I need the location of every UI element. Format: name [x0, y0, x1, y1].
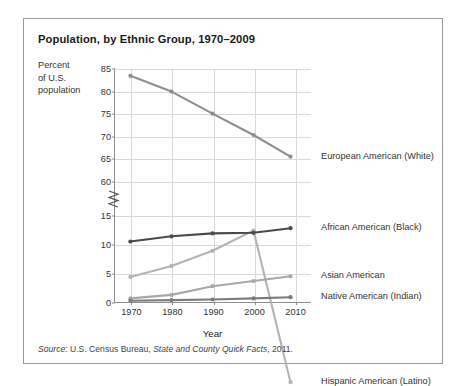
y-axis-title: Percent of U.S. population [38, 59, 98, 97]
y-axis-tick-label: 0 [106, 298, 111, 308]
series-data-point [288, 155, 292, 159]
series-data-point [128, 299, 132, 303]
y-axis-tick-label: 85 [101, 64, 111, 74]
series-label: Hispanic American (Latino) [321, 376, 431, 386]
series-data-point [288, 274, 292, 278]
series-label: European American (White) [321, 151, 434, 161]
y-axis-title-line-2: of U.S. [38, 72, 98, 85]
data-series-layer [114, 69, 311, 303]
y-axis-tick-label: 10 [101, 240, 111, 250]
chart-title: Population, by Ethnic Group, 1970–2009 [38, 33, 255, 45]
y-axis-tick-label: 70 [101, 132, 111, 142]
y-axis-tick-label: 75 [101, 109, 111, 119]
source-publication: State and County Quick Facts [153, 344, 267, 354]
chart-figure: Population, by Ethnic Group, 1970–2009 P… [23, 18, 443, 364]
series-data-point [288, 295, 292, 299]
source-text-after: , 2011. [267, 344, 293, 354]
x-axis-tick-label: 1980 [162, 307, 182, 317]
series-label: Asian American [321, 270, 385, 280]
series-data-point [169, 293, 173, 297]
y-axis-tick-label: 15 [101, 211, 111, 221]
axis-break-zigzag [109, 191, 118, 207]
series-data-point [169, 298, 173, 302]
series-data-point [251, 133, 255, 137]
x-axis-tick-label: 1970 [121, 307, 141, 317]
source-prefix: Source: [38, 344, 68, 354]
series-data-point [210, 284, 214, 288]
x-axis-tick-label: 2000 [244, 307, 264, 317]
series-data-point [128, 275, 132, 279]
x-axis-tick-label: 1990 [203, 307, 223, 317]
series-line [130, 76, 290, 157]
series-data-point [169, 264, 173, 268]
y-axis-tick-label: 80 [101, 87, 111, 97]
series-data-point [169, 90, 173, 94]
y-axis-title-line-1: Percent [38, 59, 98, 72]
source-note: Source: U.S. Census Bureau, State and Co… [38, 344, 293, 354]
y-axis-title-line-3: population [38, 84, 98, 97]
y-axis-tick-label: 60 [101, 177, 111, 187]
series-data-point [251, 296, 255, 300]
plot-area: 051015606570758085 19701980199020002010 [114, 69, 311, 303]
series-data-point [210, 112, 214, 116]
x-axis-tick-label: 2010 [285, 307, 305, 317]
series-line [130, 228, 290, 241]
series-data-point [169, 234, 173, 238]
series-label: Native American (Indian) [321, 291, 422, 301]
series-label: African American (Black) [321, 222, 422, 232]
x-axis-title: Year [114, 328, 311, 339]
series-data-point [128, 239, 132, 243]
y-axis-tick-label: 5 [106, 269, 111, 279]
series-data-point [251, 279, 255, 283]
series-data-point [210, 249, 214, 253]
source-text-before: U.S. Census Bureau, [68, 344, 154, 354]
y-axis-tick-label: 65 [101, 154, 111, 164]
series-data-point [288, 380, 292, 384]
series-data-point [210, 231, 214, 235]
series-data-point [251, 231, 255, 235]
series-data-point [288, 226, 292, 230]
series-data-point [210, 297, 214, 301]
series-line [130, 297, 290, 301]
series-data-point [128, 74, 132, 78]
